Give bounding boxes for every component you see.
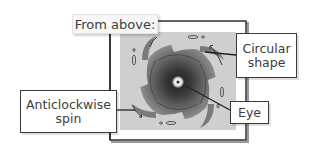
circular-shape-label: Circular shape [236, 33, 297, 78]
title-label: From above: [72, 14, 158, 34]
eye-text: Eye [238, 106, 261, 120]
eye-label: Eye [230, 101, 269, 124]
storm-spiral [132, 36, 224, 128]
circular-shape-text-line2: shape [248, 56, 286, 70]
cyclone-illustration [0, 0, 319, 159]
circular-shape-text-line1: Circular [242, 42, 290, 56]
anticlockwise-spin-label: Anticlockwise spin [20, 90, 117, 133]
spin-text-line2: spin [56, 112, 82, 126]
cyclone-diagram: From above: Circular shape Anticlockwise… [0, 0, 319, 159]
spin-text-line1: Anticlockwise [26, 98, 111, 112]
title-text: From above: [75, 17, 156, 32]
